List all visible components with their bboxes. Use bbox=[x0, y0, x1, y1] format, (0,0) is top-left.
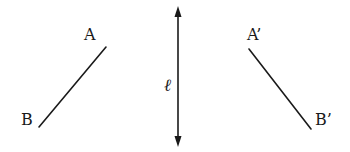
label-axis-l: ℓ bbox=[164, 75, 171, 95]
arrow-down-icon bbox=[175, 136, 182, 147]
label-point-a-prime: A’ bbox=[246, 25, 261, 44]
segment-a-prime-b-prime bbox=[249, 49, 311, 129]
arrow-up-icon bbox=[175, 6, 182, 17]
label-point-a: A bbox=[83, 25, 96, 44]
segment-ab bbox=[39, 47, 106, 127]
reflection-diagram: A B ℓ A’ B’ bbox=[0, 0, 350, 152]
label-point-b: B bbox=[21, 110, 33, 129]
label-point-b-prime: B’ bbox=[315, 110, 332, 129]
reflection-axis bbox=[175, 6, 182, 147]
